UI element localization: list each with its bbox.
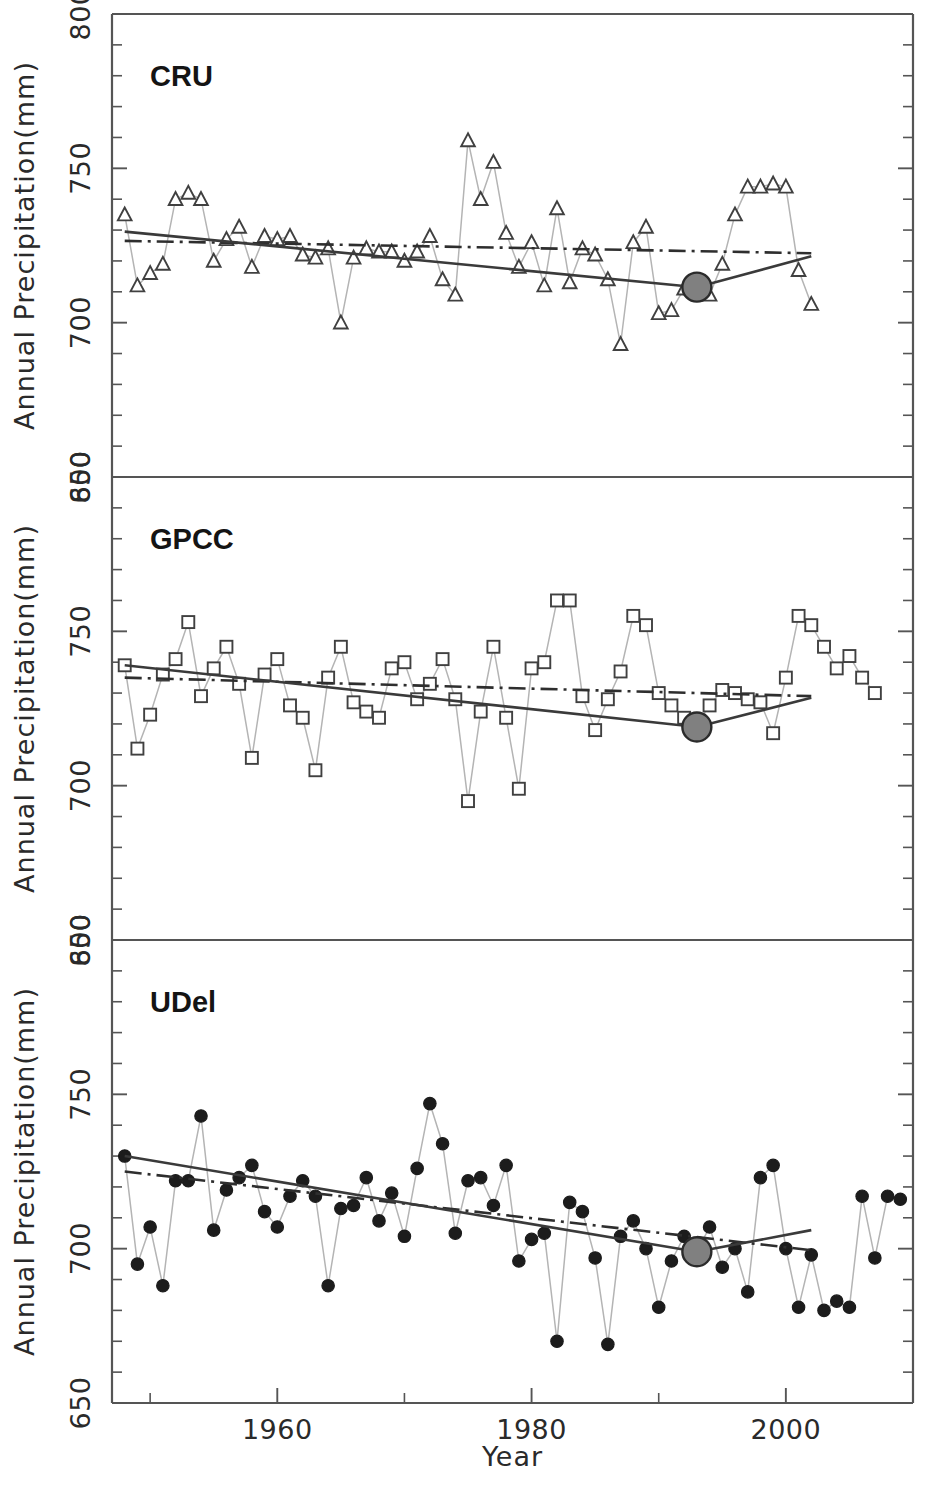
data-point	[525, 1233, 537, 1245]
panel-title-udel: UDel	[150, 986, 216, 1018]
data-point	[131, 1258, 143, 1270]
data-point	[487, 641, 499, 653]
data-point	[818, 1304, 830, 1316]
data-point	[615, 665, 627, 677]
data-point	[360, 1171, 372, 1183]
data-point	[805, 619, 817, 631]
data-point	[246, 1159, 258, 1171]
data-point	[386, 662, 398, 674]
x-tick-label: 1960	[242, 1414, 313, 1445]
data-point	[462, 1175, 474, 1187]
changepoint-marker	[682, 273, 711, 302]
data-point	[449, 1227, 461, 1239]
data-point	[487, 1199, 499, 1211]
data-point	[818, 641, 830, 653]
data-point	[475, 1171, 487, 1183]
y-tick-label: 700	[65, 296, 96, 349]
data-point	[653, 687, 665, 699]
panel-title-gpcc: GPCC	[150, 523, 234, 555]
data-point	[386, 1187, 398, 1199]
data-point	[653, 1301, 665, 1313]
data-point	[246, 752, 258, 764]
data-point	[131, 743, 143, 755]
data-point	[602, 1338, 614, 1350]
data-point	[182, 616, 194, 628]
data-point	[716, 1261, 728, 1273]
data-point	[780, 672, 792, 684]
data-point	[589, 1252, 601, 1264]
data-point	[284, 699, 296, 711]
data-point	[564, 1196, 576, 1208]
data-point	[881, 1190, 893, 1202]
data-point	[271, 653, 283, 665]
data-point	[831, 1295, 843, 1307]
data-point	[538, 656, 550, 668]
data-point	[271, 1221, 283, 1233]
data-point	[589, 724, 601, 736]
y-tick-label: 650	[65, 1376, 96, 1429]
data-point	[360, 706, 372, 718]
data-point	[742, 1286, 754, 1298]
data-point	[551, 594, 563, 606]
data-point	[576, 690, 588, 702]
data-point	[754, 696, 766, 708]
x-tick-label: 2000	[750, 1414, 821, 1445]
data-point	[627, 610, 639, 622]
data-point	[335, 641, 347, 653]
y-tick-label: 750	[65, 142, 96, 195]
data-point	[843, 1301, 855, 1313]
data-point	[144, 709, 156, 721]
changepoint-marker	[682, 713, 711, 742]
data-point	[856, 1190, 868, 1202]
chart-canvas: 650700750800CRU650700750800GPCC650700750…	[0, 0, 934, 1491]
data-point	[195, 1110, 207, 1122]
data-point	[195, 690, 207, 702]
data-point	[424, 678, 436, 690]
data-point	[258, 1205, 270, 1217]
precipitation-figure: 650700750800CRU650700750800GPCC650700750…	[0, 0, 934, 1491]
data-point	[398, 656, 410, 668]
data-point	[704, 699, 716, 711]
data-point	[640, 619, 652, 631]
data-point	[843, 650, 855, 662]
y-tick-label: 800	[65, 0, 96, 41]
y-axis-title: Annual Precipitation(mm)	[9, 524, 40, 893]
data-point	[703, 1221, 715, 1233]
data-point	[309, 1190, 321, 1202]
data-point	[792, 1301, 804, 1313]
y-tick-label: 800	[65, 450, 96, 503]
data-point	[576, 1205, 588, 1217]
data-point	[373, 712, 385, 724]
data-point	[398, 1230, 410, 1242]
data-point	[894, 1193, 906, 1205]
data-point	[144, 1221, 156, 1233]
y-axis-title: Annual Precipitation(mm)	[9, 987, 40, 1356]
data-point	[513, 783, 525, 795]
data-point	[335, 1202, 347, 1214]
data-point	[309, 764, 321, 776]
data-point	[551, 1335, 563, 1347]
data-point	[767, 727, 779, 739]
data-point	[513, 1255, 525, 1267]
changepoint-marker	[682, 1237, 711, 1266]
y-axis-title: Annual Precipitation(mm)	[9, 61, 40, 430]
data-point	[347, 1199, 359, 1211]
y-tick-label: 750	[65, 1068, 96, 1121]
data-point	[348, 696, 360, 708]
data-point	[436, 1138, 448, 1150]
data-point	[411, 1162, 423, 1174]
data-point	[208, 1224, 220, 1236]
data-point	[780, 1242, 792, 1254]
data-point	[170, 653, 182, 665]
x-axis-title: Year	[481, 1441, 543, 1472]
data-point	[856, 672, 868, 684]
data-point	[538, 1227, 550, 1239]
data-point	[462, 795, 474, 807]
y-tick-label: 700	[65, 759, 96, 812]
data-point	[767, 1159, 779, 1171]
data-point	[373, 1215, 385, 1227]
data-point	[182, 1175, 194, 1187]
data-point	[665, 1255, 677, 1267]
data-point	[831, 662, 843, 674]
data-point	[437, 653, 449, 665]
